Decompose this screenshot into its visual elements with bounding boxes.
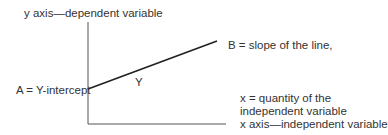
- line-y-label: Y: [135, 76, 143, 89]
- regression-line: [88, 41, 217, 89]
- y-axis-label: y axis—dependent variable: [24, 7, 163, 20]
- x-quantity-label-line2: independent variable: [240, 105, 347, 118]
- slope-label: B = slope of the line,: [228, 39, 333, 52]
- x-quantity-label-line1: x = quantity of the: [240, 92, 331, 105]
- x-axis-label: x axis—independent variable: [240, 118, 388, 131]
- intercept-label: A = Y-intercept: [16, 84, 91, 97]
